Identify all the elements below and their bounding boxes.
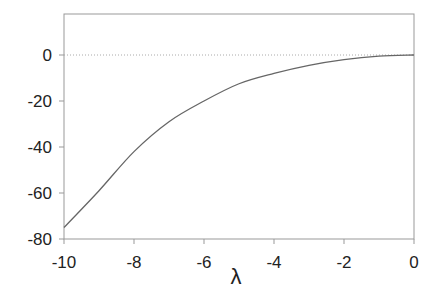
y-tick-label: -80 [27, 230, 52, 249]
y-tick-label: 0 [43, 46, 52, 65]
y-axis: 0-20-40-60-80 [27, 46, 64, 249]
plot-frame [64, 14, 414, 239]
x-tick-label: -2 [336, 253, 351, 272]
x-tick-label: -10 [52, 253, 77, 272]
y-tick-label: -40 [27, 138, 52, 157]
y-tick-label: -60 [27, 184, 52, 203]
y-tick-label: -20 [27, 92, 52, 111]
x-axis-label: λ [231, 264, 242, 289]
line-chart: 0-20-40-60-80 -10-8-6-4-20 λ [0, 0, 438, 298]
x-tick-label: -4 [266, 253, 281, 272]
x-tick-label: -6 [196, 253, 211, 272]
x-tick-label: 0 [409, 253, 418, 272]
data-line [64, 55, 414, 228]
x-tick-label: -8 [126, 253, 141, 272]
